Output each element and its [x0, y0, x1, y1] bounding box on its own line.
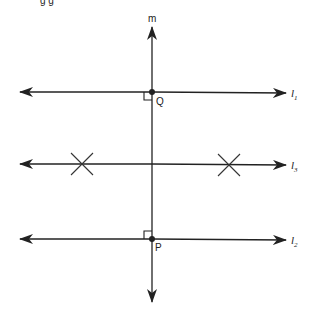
- label-m: m: [148, 13, 156, 24]
- label-l2: l2: [291, 234, 298, 249]
- point-q: [149, 89, 155, 95]
- line-l3: [20, 164, 286, 165]
- label-l3: l3: [291, 159, 298, 174]
- label-q: Q: [156, 96, 164, 107]
- label-l1: l1: [291, 87, 298, 102]
- caption-fragment: g g: [40, 0, 54, 6]
- label-p: P: [155, 242, 162, 253]
- geometry-diagram: g g m l1 Q l3 l2 P: [0, 0, 313, 322]
